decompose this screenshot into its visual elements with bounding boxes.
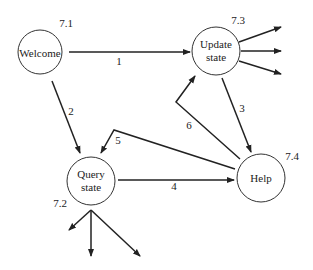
state-transition-diagram: Welcome Update state Query state Help 7.… (0, 0, 313, 270)
edge-3-label: 3 (239, 102, 245, 114)
edge-4-label: 4 (171, 180, 177, 192)
edge-3-arrow (222, 78, 251, 152)
edge-5-label: 5 (115, 134, 121, 146)
node-help-label: Help (250, 172, 271, 185)
node-welcome-label: Welcome (19, 47, 60, 60)
update-out-arrow-3 (239, 61, 281, 74)
edge-6-label: 6 (186, 119, 192, 131)
edge-6-arrow (176, 76, 240, 159)
node-welcome-number: 7.1 (59, 17, 73, 29)
query-out-arrow-3 (91, 210, 140, 256)
node-update-label-line1: Update (200, 38, 232, 51)
node-query-label-line1: Query (77, 168, 105, 181)
node-help-number: 7.4 (285, 150, 299, 162)
diagram-edges (0, 0, 313, 270)
edge-2-arrow (52, 81, 80, 153)
node-update-label-line2: state (200, 51, 232, 64)
edge-1-label: 1 (116, 55, 122, 67)
update-out-arrow-1 (239, 27, 281, 42)
node-update-label: Update state (200, 38, 232, 64)
node-query-label: Query state (77, 168, 105, 194)
node-update-number: 7.3 (231, 14, 245, 26)
node-query-number: 7.2 (53, 197, 67, 209)
query-out-arrow-1 (69, 210, 91, 230)
edge-2-label: 2 (68, 105, 74, 117)
node-query-label-line2: state (77, 181, 105, 194)
